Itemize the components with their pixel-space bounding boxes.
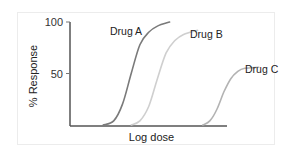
- y-axis-title: % Response: [27, 45, 39, 107]
- y-tick-label: 50: [51, 68, 63, 80]
- series-lines: [103, 22, 259, 125]
- dose-response-chart: 10050 Drug ADrug BDrug C Log dose % Resp…: [0, 0, 302, 157]
- x-axis-title: Log dose: [129, 131, 174, 143]
- series-label-drug-a: Drug A: [110, 25, 142, 37]
- series-line-drug-c: [203, 67, 259, 125]
- series-line-drug-b: [131, 30, 197, 125]
- series-label-drug-b: Drug B: [190, 28, 223, 40]
- series-label-drug-c: Drug C: [245, 63, 279, 75]
- y-tick-label: 100: [45, 16, 63, 28]
- series-labels: Drug ADrug BDrug C: [110, 25, 279, 75]
- y-ticks: 10050: [45, 16, 70, 80]
